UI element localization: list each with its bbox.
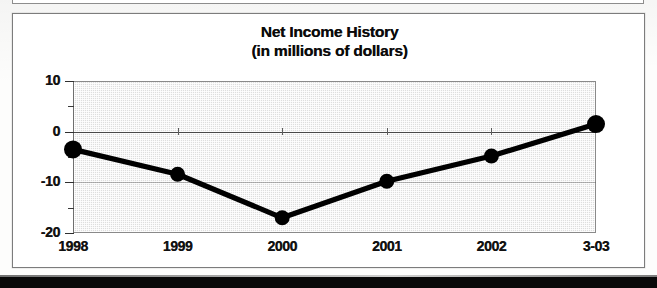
data-point-1998 bbox=[64, 140, 82, 158]
plot-wrap: 100-10-20 199819992000200120023-03 bbox=[13, 14, 646, 269]
data-point-2001 bbox=[379, 174, 394, 189]
scan-edge-bar bbox=[0, 277, 657, 288]
data-series-line bbox=[13, 14, 646, 269]
clipped-table-above bbox=[12, 0, 644, 4]
data-point-2000 bbox=[275, 210, 290, 225]
data-point-2002 bbox=[484, 148, 499, 163]
data-point-3-03 bbox=[587, 115, 605, 133]
chart-frame: Net Income History (in millions of dolla… bbox=[12, 13, 645, 268]
data-point-1999 bbox=[170, 167, 185, 182]
scanned-page-background: Net Income History (in millions of dolla… bbox=[0, 0, 657, 288]
